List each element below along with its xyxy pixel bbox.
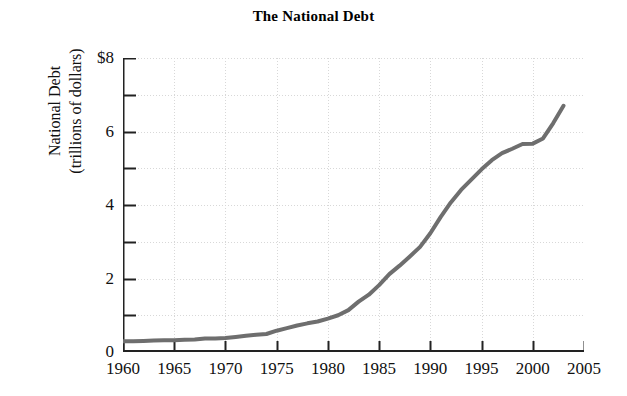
chart-title: The National Debt (0, 8, 627, 25)
y-axis-tick-labels: 0246$8 (74, 58, 114, 352)
y-axis-title-line1: National Debt (44, 0, 65, 236)
y-tick-label: 6 (78, 123, 114, 140)
data-series-layer (123, 106, 564, 342)
national-debt-chart: The National Debt National Debt (trillio… (0, 0, 627, 396)
y-tick-label: 2 (78, 270, 114, 287)
y-tick-label: 0 (78, 343, 114, 360)
plot-area (123, 58, 584, 352)
plot-svg (123, 58, 584, 352)
y-tick-label: $8 (78, 49, 114, 66)
x-axis-tick-labels: 1960196519701975198019851990199520002005 (123, 360, 584, 384)
data-line-national-debt (123, 106, 564, 342)
y-tick-label: 4 (78, 196, 114, 213)
x-tick-label: 2005 (554, 360, 614, 377)
